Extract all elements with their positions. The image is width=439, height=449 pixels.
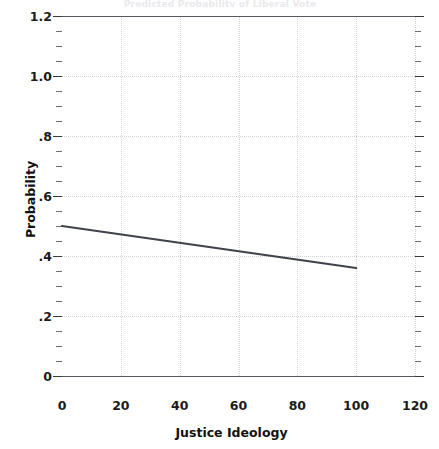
x-axis-title: Justice Ideology bbox=[0, 425, 439, 440]
y-tick-major bbox=[53, 16, 62, 17]
y-tick-label: 1.0 bbox=[18, 69, 52, 84]
y-tick-label: .4 bbox=[18, 249, 52, 264]
y-tick-major bbox=[53, 196, 62, 197]
x-tick-label: 40 bbox=[171, 398, 188, 413]
x-tick-label: 0 bbox=[58, 398, 67, 413]
y-tick-major-right bbox=[415, 76, 424, 77]
y-tick-minor-right bbox=[415, 46, 421, 47]
x-tick-label: 120 bbox=[402, 398, 428, 413]
y-tick-major bbox=[53, 256, 62, 257]
x-tick-label: 60 bbox=[230, 398, 247, 413]
y-tick-minor-right bbox=[415, 346, 421, 347]
y-tick-major-right bbox=[415, 196, 424, 197]
y-tick-major-right bbox=[415, 136, 424, 137]
frame-line-bottom bbox=[62, 376, 415, 377]
y-tick-major-right bbox=[415, 376, 424, 377]
x-tick-label: 100 bbox=[343, 398, 369, 413]
y-tick-minor-right bbox=[415, 91, 421, 92]
chart-title-remnant: Predicted Probability of Liberal Vote bbox=[100, 0, 340, 7]
y-tick-minor-right bbox=[415, 61, 421, 62]
y-tick-major-right bbox=[415, 16, 424, 17]
y-tick-minor-right bbox=[415, 211, 421, 212]
y-tick-label: .2 bbox=[18, 309, 52, 324]
chart-container: Predicted Probability of Liberal Vote 1.… bbox=[0, 0, 439, 449]
y-tick-label: 0 bbox=[18, 369, 52, 384]
y-tick-label: 1.2 bbox=[18, 9, 52, 24]
y-tick-label: .8 bbox=[18, 129, 52, 144]
data-series-line bbox=[62, 16, 415, 376]
y-tick-minor-right bbox=[415, 271, 421, 272]
x-axis-tick-labels: 0 20 40 60 80 100 120 bbox=[62, 398, 415, 416]
y-tick-major bbox=[53, 76, 62, 77]
y-tick-minor-right bbox=[415, 301, 421, 302]
y-tick-minor-right bbox=[415, 286, 421, 287]
y-tick-minor-right bbox=[415, 106, 421, 107]
x-tick-label: 20 bbox=[112, 398, 129, 413]
plot-area bbox=[62, 16, 415, 376]
y-tick-major-right bbox=[415, 316, 424, 317]
y-tick-major bbox=[53, 136, 62, 137]
y-tick-minor-right bbox=[415, 181, 421, 182]
x-tick-label: 80 bbox=[289, 398, 306, 413]
y-tick-minor-right bbox=[415, 31, 421, 32]
y-tick-major-right bbox=[415, 256, 424, 257]
y-tick-minor-right bbox=[415, 361, 421, 362]
y-tick-label: .6 bbox=[18, 189, 52, 204]
y-axis-tick-labels: 1.2 1.0 .8 .6 .4 .2 0 bbox=[0, 16, 52, 376]
y-tick-minor-right bbox=[415, 166, 421, 167]
y-tick-minor-right bbox=[415, 121, 421, 122]
y-tick-minor-right bbox=[415, 151, 421, 152]
y-tick-major bbox=[53, 316, 62, 317]
y-tick-minor-right bbox=[415, 226, 421, 227]
y-tick-major bbox=[53, 376, 62, 377]
y-tick-minor-right bbox=[415, 241, 421, 242]
y-tick-minor-right bbox=[415, 331, 421, 332]
